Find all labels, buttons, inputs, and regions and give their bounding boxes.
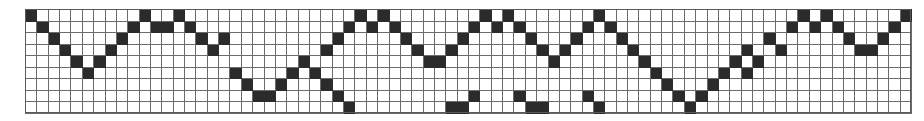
grid-cell-empty [344, 10, 355, 22]
grid-cell-empty [355, 44, 366, 56]
grid-cell-empty [446, 10, 457, 22]
grid-row [26, 67, 912, 79]
grid-cell-empty [309, 56, 320, 68]
grid-cell-empty [332, 44, 343, 56]
grid-cell-empty [707, 33, 718, 45]
grid-cell-empty [877, 21, 888, 33]
grid-cell-empty [650, 102, 661, 114]
grid-cell-empty [582, 67, 593, 79]
grid-cell-empty [332, 79, 343, 91]
grid-cell-filled [332, 33, 343, 45]
grid-cell-filled [764, 33, 775, 45]
grid-cell-filled [787, 21, 798, 33]
grid-cell-empty [162, 44, 173, 56]
grid-cell-empty [753, 79, 764, 91]
grid-cell-empty [60, 67, 71, 79]
grid-cell-empty [423, 90, 434, 102]
grid-cell-empty [241, 10, 252, 22]
grid-cell-empty [787, 67, 798, 79]
grid-cell-empty [400, 56, 411, 68]
grid-cell-empty [82, 102, 93, 114]
grid-cell-empty [753, 33, 764, 45]
grid-cell-filled [26, 10, 37, 22]
grid-cell-empty [423, 79, 434, 91]
grid-cell-empty [832, 44, 843, 56]
grid-cell-empty [900, 90, 911, 102]
grid-cell-empty [696, 10, 707, 22]
grid-cell-empty [503, 67, 514, 79]
grid-cell-filled [821, 10, 832, 22]
grid-cell-empty [332, 10, 343, 22]
grid-cell-filled [469, 21, 480, 33]
grid-cell-empty [593, 90, 604, 102]
grid-cell-empty [696, 44, 707, 56]
grid-cell-empty [321, 90, 332, 102]
grid-cell-empty [889, 79, 900, 91]
grid-cell-empty [503, 79, 514, 91]
grid-cell-filled [287, 67, 298, 79]
grid-cell-empty [412, 10, 423, 22]
grid-cell-empty [889, 102, 900, 114]
grid-cell-filled [877, 33, 888, 45]
grid-cell-empty [480, 56, 491, 68]
grid-cell-empty [480, 102, 491, 114]
grid-cell-empty [264, 67, 275, 79]
grid-cell-empty [60, 33, 71, 45]
grid-cell-empty [503, 102, 514, 114]
grid-cell-filled [707, 79, 718, 91]
grid-cell-empty [332, 56, 343, 68]
grid-cell-empty [105, 102, 116, 114]
grid-cell-empty [469, 10, 480, 22]
grid-cell-filled [605, 21, 616, 33]
grid-cell-empty [741, 79, 752, 91]
grid-cell-filled [457, 102, 468, 114]
grid-cell-empty [105, 90, 116, 102]
grid-cell-empty [571, 21, 582, 33]
grid-cell-empty [787, 10, 798, 22]
grid-cell-empty [219, 67, 230, 79]
grid-cell-empty [696, 33, 707, 45]
grid-cell-empty [173, 79, 184, 91]
grid-cell-empty [707, 90, 718, 102]
grid-cell-empty [94, 79, 105, 91]
grid-cell-filled [525, 102, 536, 114]
grid-cell-empty [593, 79, 604, 91]
grid-cell-empty [684, 79, 695, 91]
grid-cell-empty [185, 33, 196, 45]
grid-cell-empty [900, 21, 911, 33]
grid-cell-empty [628, 102, 639, 114]
grid-cell-empty [185, 90, 196, 102]
grid-cell-filled [71, 56, 82, 68]
grid-cell-empty [219, 90, 230, 102]
grid-cell-empty [639, 44, 650, 56]
grid-cell-empty [593, 56, 604, 68]
grid-cell-empty [185, 56, 196, 68]
grid-cell-empty [82, 21, 93, 33]
grid-cell-empty [48, 21, 59, 33]
grid-cell-empty [582, 33, 593, 45]
grid-cell-empty [662, 21, 673, 33]
grid-cell-empty [344, 44, 355, 56]
grid-cell-empty [139, 21, 150, 33]
grid-cell-empty [514, 67, 525, 79]
grid-cell-empty [26, 90, 37, 102]
grid-cell-empty [434, 79, 445, 91]
grid-cell-empty [412, 56, 423, 68]
grid-cell-filled [389, 21, 400, 33]
grid-cell-empty [469, 33, 480, 45]
grid-cell-empty [196, 21, 207, 33]
grid-cell-empty [26, 21, 37, 33]
grid-cell-empty [355, 33, 366, 45]
grid-cell-empty [559, 56, 570, 68]
grid-cell-empty [753, 102, 764, 114]
grid-cell-empty [37, 102, 48, 114]
grid-cell-filled [60, 44, 71, 56]
grid-cell-empty [662, 33, 673, 45]
grid-cell-empty [321, 33, 332, 45]
grid-cell-empty [241, 56, 252, 68]
grid-cell-filled [775, 44, 786, 56]
grid-cell-empty [730, 79, 741, 91]
grid-cell-empty [673, 21, 684, 33]
grid-cell-empty [480, 79, 491, 91]
grid-cell-empty [332, 21, 343, 33]
